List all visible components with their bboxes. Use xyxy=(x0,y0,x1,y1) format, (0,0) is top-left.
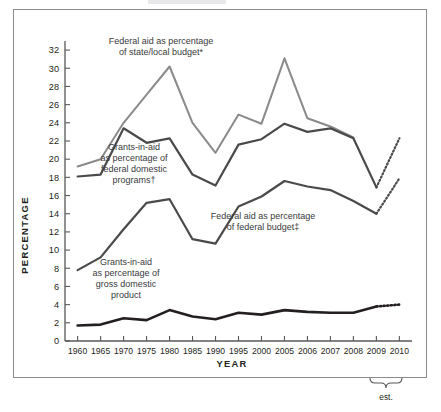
annotation-federal-budget: Federal aid as percentage of federal bud… xyxy=(211,211,316,232)
annotation-domestic-line4: programs† xyxy=(112,175,155,185)
y-tick-label: 16 xyxy=(49,191,59,201)
x-tick-labels: 1960196519701975198019851990199520002005… xyxy=(68,346,409,356)
series-estimate-2 xyxy=(376,178,399,213)
x-tick-label: 2008 xyxy=(344,346,363,356)
x-tick-label: 2000 xyxy=(252,346,271,356)
y-tick-label: 24 xyxy=(49,118,59,128)
x-tick-label: 1980 xyxy=(160,346,179,356)
annotation-domestic-line1: Grants-in-aid xyxy=(108,142,160,152)
annotation-fedbudget-line2: of federal budget‡ xyxy=(227,222,300,232)
series-estimate-3 xyxy=(376,305,399,307)
estimate-bracket: est. xyxy=(370,378,402,402)
x-tick-label: 1970 xyxy=(114,346,133,356)
annotation-gdp-line2: as percentage of xyxy=(92,268,160,278)
annotation-gdp-line1: Grants-in-aid xyxy=(100,257,152,267)
series-line-3 xyxy=(78,307,377,326)
y-tick-label: 32 xyxy=(49,45,59,55)
x-tick-label: 1975 xyxy=(137,346,156,356)
y-axis: 02468101214161820222426283032 PERCENTAGE xyxy=(19,41,70,346)
line-chart-plot: 02468101214161820222426283032 PERCENTAGE… xyxy=(0,0,441,412)
x-axis-title: YEAR xyxy=(216,358,247,369)
annotation-gdp-line4: product xyxy=(111,290,142,300)
y-tick-label: 30 xyxy=(49,64,59,74)
y-axis-title: PERCENTAGE xyxy=(19,196,30,273)
chart-figure: 02468101214161820222426283032 PERCENTAGE… xyxy=(0,0,441,412)
y-tick-label: 6 xyxy=(54,282,59,292)
x-axis: 1960196519701975198019851990199520002005… xyxy=(65,336,412,369)
x-tick-label: 1960 xyxy=(68,346,87,356)
annotation-state-local-line2: of state/local budget* xyxy=(119,47,204,57)
annotation-fedbudget-line1: Federal aid as percentage xyxy=(211,211,316,221)
y-tick-label: 20 xyxy=(49,154,59,164)
x-tick-label: 2006 xyxy=(298,346,317,356)
y-tick-label: 14 xyxy=(49,209,59,219)
x-tick-label: 2005 xyxy=(275,346,294,356)
x-tick-label: 1990 xyxy=(206,346,225,356)
x-tick-label: 1995 xyxy=(229,346,248,356)
y-tick-label: 18 xyxy=(49,173,59,183)
x-tick-label: 2010 xyxy=(390,346,409,356)
y-tick-label: 12 xyxy=(49,227,59,237)
x-tick-label: 2009 xyxy=(367,346,386,356)
annotation-gdp: Grants-in-aid as percentage of gross dom… xyxy=(92,257,160,300)
y-tick-label: 10 xyxy=(49,245,59,255)
y-tick-label: 22 xyxy=(49,136,59,146)
annotation-domestic-programs: Grants-in-aid as percentage of federal d… xyxy=(100,142,168,185)
y-tick-label: 0 xyxy=(54,336,59,346)
x-tick-marks xyxy=(78,336,400,341)
x-tick-label: 2007 xyxy=(321,346,340,356)
x-tick-label: 1985 xyxy=(183,346,202,356)
x-tick-label: 1965 xyxy=(91,346,110,356)
annotation-gdp-line3: gross domestic xyxy=(96,279,157,289)
y-tick-labels: 02468101214161820222426283032 xyxy=(49,45,59,346)
y-tick-label: 2 xyxy=(54,318,59,328)
annotation-domestic-line3: federal domestic xyxy=(101,164,168,174)
annotation-domestic-line2: as percentage of xyxy=(100,153,168,163)
annotation-state-local: Federal aid as percentage of state/local… xyxy=(109,36,214,57)
estimate-label: est. xyxy=(379,392,393,402)
annotation-state-local-line1: Federal aid as percentage xyxy=(109,36,214,46)
y-tick-label: 26 xyxy=(49,100,59,110)
series-estimate-1 xyxy=(376,138,399,187)
y-tick-label: 8 xyxy=(54,264,59,274)
y-tick-marks xyxy=(65,50,70,341)
y-tick-label: 28 xyxy=(49,82,59,92)
y-tick-label: 4 xyxy=(54,300,59,310)
